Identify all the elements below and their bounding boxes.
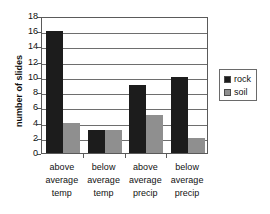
x-tick-mark — [83, 154, 84, 158]
plot-area — [41, 17, 208, 154]
x-cat-label-line: precip — [163, 187, 211, 200]
y-tick-label: 16 — [12, 27, 38, 36]
y-tick-label: 0 — [12, 149, 38, 158]
gridline — [42, 48, 207, 49]
bar-rock-1 — [88, 130, 105, 153]
bar-soil-3 — [188, 138, 205, 153]
bar-rock-3 — [171, 77, 188, 153]
y-tick-label: 2 — [12, 134, 38, 143]
gridline — [42, 33, 207, 34]
gridline — [42, 64, 207, 65]
x-cat-label-line: below — [163, 161, 211, 174]
y-tick-label: 8 — [12, 88, 38, 97]
x-tick-mark — [166, 154, 167, 158]
x-cat-label-line: average — [163, 174, 211, 187]
x-tick-mark — [125, 154, 126, 158]
bar-soil-2 — [146, 115, 163, 153]
y-tick-label: 4 — [12, 119, 38, 128]
legend: rock soil — [219, 69, 257, 101]
y-tick-label: 6 — [12, 103, 38, 112]
rock-swatch-icon — [224, 76, 231, 83]
bar-rock-2 — [129, 85, 146, 154]
y-tick-label: 12 — [12, 58, 38, 67]
bar-rock-0 — [46, 31, 63, 153]
soil-swatch-icon — [224, 89, 231, 96]
bar-chart: number of slides 024681012141618 aboveav… — [0, 0, 270, 214]
legend-item-rock: rock — [224, 73, 256, 86]
y-tick-label: 10 — [12, 73, 38, 82]
x-cat-label-3: belowaverageprecip — [163, 161, 211, 200]
y-tick-label: 18 — [12, 12, 38, 21]
legend-label-soil: soil — [234, 88, 248, 97]
bar-soil-1 — [105, 130, 122, 153]
legend-label-rock: rock — [234, 75, 251, 84]
bar-soil-0 — [63, 123, 80, 153]
y-tick-label: 14 — [12, 42, 38, 51]
legend-item-soil: soil — [224, 86, 256, 99]
